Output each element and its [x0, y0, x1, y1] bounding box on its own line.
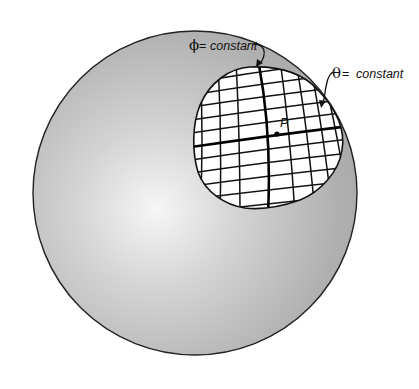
svg-text:constant: constant	[356, 67, 404, 81]
sphere-coordinate-diagram: P ϕ = constant θ = constant	[0, 0, 419, 389]
svg-text:constant: constant	[210, 39, 258, 53]
svg-text:=: =	[199, 39, 206, 53]
theta-label: θ = constant	[319, 64, 404, 108]
svg-text:=: =	[342, 67, 349, 81]
svg-text:ϕ: ϕ	[189, 36, 199, 54]
point-p-marker	[274, 131, 279, 136]
svg-text:θ: θ	[332, 64, 341, 82]
point-p-label: P	[280, 116, 289, 130]
